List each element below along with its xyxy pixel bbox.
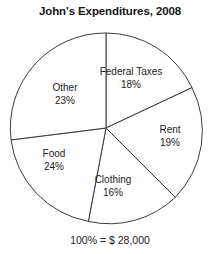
pie-label-clothing-name: Clothing <box>95 174 132 185</box>
chart-footer-total: 100% = $ 28,000 <box>0 234 220 246</box>
pie-label-food-value: 24% <box>26 161 82 174</box>
pie-label-rent-value: 19% <box>144 137 196 150</box>
pie-label-food-name: Food <box>43 148 66 159</box>
pie-label-federal-taxes: Federal Taxes 18% <box>93 66 169 91</box>
pie-label-rent-name: Rent <box>159 124 180 135</box>
pie-label-federal-taxes-name: Federal Taxes <box>100 66 163 77</box>
pie-label-other-value: 23% <box>36 95 94 108</box>
pie-label-rent: Rent 19% <box>144 124 196 149</box>
pie-label-clothing: Clothing 16% <box>82 174 144 199</box>
pie-label-other-name: Other <box>52 82 77 93</box>
pie-label-other: Other 23% <box>36 82 94 107</box>
pie-label-federal-taxes-value: 18% <box>93 79 169 92</box>
pie-label-food: Food 24% <box>26 148 82 173</box>
pie-label-clothing-value: 16% <box>82 187 144 200</box>
